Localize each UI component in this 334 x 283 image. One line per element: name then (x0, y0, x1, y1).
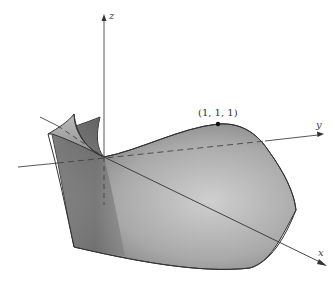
y-axis-back (18, 163, 58, 167)
x-axis-back (40, 117, 58, 126)
z-axis-label: z (108, 10, 115, 21)
point-marker (216, 122, 220, 126)
point-label: (1, 1, 1) (198, 107, 238, 118)
x-axis-label: x (318, 247, 324, 258)
y-axis-arrow-icon (317, 132, 324, 138)
y-axis (265, 135, 318, 141)
y-axis-label: y (315, 119, 322, 130)
z-axis-arrow-icon (102, 14, 107, 21)
surface-figure: z x y (1, 1, 1) (0, 0, 334, 283)
x-axis-arrow-icon (317, 259, 327, 266)
